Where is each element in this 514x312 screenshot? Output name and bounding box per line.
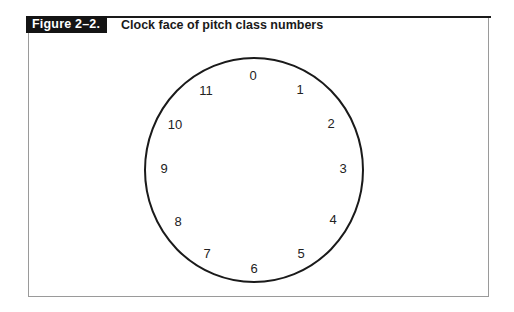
clock-numbers: 01234567891011	[160, 68, 346, 276]
pitch-class-number-1: 1	[296, 82, 303, 97]
pitch-class-number-0: 0	[249, 68, 256, 83]
pitch-class-number-11: 11	[199, 83, 213, 98]
pitch-class-number-6: 6	[250, 261, 257, 276]
pitch-class-number-2: 2	[327, 116, 334, 131]
pitch-class-number-9: 9	[160, 161, 167, 176]
pitch-class-number-5: 5	[297, 246, 304, 261]
pitch-class-number-4: 4	[329, 212, 336, 227]
clock-face-diagram: 01234567891011	[0, 0, 514, 312]
pitch-class-number-10: 10	[168, 117, 182, 132]
pitch-class-number-3: 3	[339, 161, 346, 176]
clock-circle	[145, 58, 363, 282]
pitch-class-number-8: 8	[174, 214, 181, 229]
pitch-class-number-7: 7	[203, 246, 210, 261]
